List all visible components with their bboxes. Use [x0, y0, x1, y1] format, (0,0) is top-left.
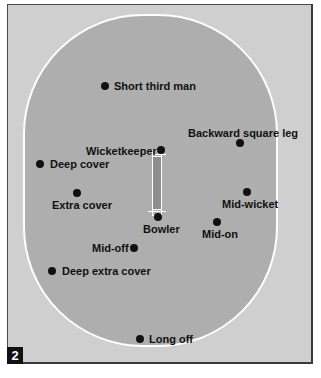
- fielder-label: Wicketkeeper: [86, 145, 157, 157]
- fielder-dot-icon: [213, 218, 221, 226]
- fielder-dot-icon: [243, 188, 251, 196]
- fielder-dot-icon: [130, 244, 138, 252]
- pitch: [145, 150, 169, 216]
- fielder-label: Long off: [149, 333, 193, 345]
- fielder-dot-icon: [73, 189, 81, 197]
- fielder-label: Short third man: [114, 80, 196, 92]
- fielder-dot-icon: [157, 146, 165, 154]
- fielder-dot-icon: [236, 139, 244, 147]
- fielder-label: Mid-off: [92, 242, 129, 254]
- fielder-label: Bowler: [143, 223, 180, 235]
- popping-crease-bottom: [148, 211, 166, 212]
- fielder-dot-icon: [101, 82, 109, 90]
- fielder-label: Mid-on: [202, 228, 238, 240]
- fielder-label: Mid-wicket: [222, 198, 278, 210]
- fielder-dot-icon: [154, 213, 162, 221]
- fielder-dot-icon: [136, 335, 144, 343]
- fielder-dot-icon: [36, 160, 44, 168]
- figure-number-badge: 2: [7, 347, 23, 364]
- pitch-strip: [152, 156, 162, 210]
- fielder-label: Backward square leg: [188, 127, 298, 139]
- fielder-dot-icon: [48, 267, 56, 275]
- fielder-label: Deep extra cover: [62, 265, 151, 277]
- fielder-label: Deep cover: [50, 158, 109, 170]
- fielder-label: Extra cover: [52, 199, 112, 211]
